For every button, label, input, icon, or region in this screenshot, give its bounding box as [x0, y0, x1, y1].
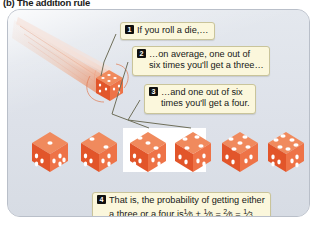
callout-3-text-2: times you'll get a four.: [149, 98, 250, 109]
callout-3-badge: 3: [149, 87, 158, 96]
callout-4-text-2: a three or a four is: [109, 209, 184, 217]
callout-4-text-1: That is, the probability of getting eith…: [109, 195, 265, 205]
formula-operator: +: [193, 209, 203, 217]
die-five: [220, 130, 260, 174]
formula-operator: =: [213, 209, 223, 217]
die-six: [266, 130, 306, 174]
die-four: [173, 130, 213, 174]
die-two: [79, 130, 119, 174]
callout-3-line-1: 3…and one out of six: [149, 87, 250, 98]
figure-panel: 1If you roll a die,… 2…on average, one o…: [7, 9, 310, 217]
callout-1[interactable]: 1If you roll a die,…: [120, 22, 215, 40]
callout-2-badge: 2: [137, 49, 146, 58]
callout-2[interactable]: 2…on average, one out of six times you'l…: [132, 46, 270, 76]
die-one: [30, 130, 70, 174]
callout-1-text: If you roll a die,…: [137, 25, 209, 35]
formula-fraction: 1⁄6: [203, 209, 212, 217]
callout-1-badge: 1: [125, 25, 134, 34]
probability-formula: 1⁄6 + 1⁄6 = 2⁄6 = 1⁄3.: [184, 206, 256, 217]
callout-4-line-1: 4That is, the probability of getting eit…: [97, 195, 265, 206]
callout-2-text-2: six times you'll get a three…: [137, 60, 264, 71]
formula-fraction: 1⁄3: [243, 209, 252, 217]
probability-addition-rule-figure: (b) The addition rule: [0, 0, 319, 225]
callout-4-line-2: a three or a four is 1⁄6 + 1⁄6 = 2⁄6 = 1…: [97, 206, 265, 217]
callout-1-line-1: 1If you roll a die,…: [125, 25, 209, 36]
callout-3[interactable]: 3…and one out of six times you'll get a …: [144, 84, 256, 114]
callout-4[interactable]: 4That is, the probability of getting eit…: [92, 192, 271, 217]
callout-2-line-1: 2…on average, one out of: [137, 49, 264, 60]
formula-fraction: 1⁄6: [184, 209, 193, 217]
callout-4-badge: 4: [97, 195, 106, 204]
formula-fraction: 2⁄6: [223, 209, 232, 217]
callout-3-text-1: …and one out of six: [161, 87, 243, 97]
callout-2-text-1: …on average, one out of: [149, 49, 250, 59]
figure-caption: (b) The addition rule: [3, 0, 90, 8]
die-three: [128, 130, 168, 174]
dice-row: [8, 126, 310, 176]
leader-line-1: [101, 34, 116, 76]
formula-operator: =: [233, 209, 243, 217]
rolling-die-illustration: [12, 16, 137, 108]
